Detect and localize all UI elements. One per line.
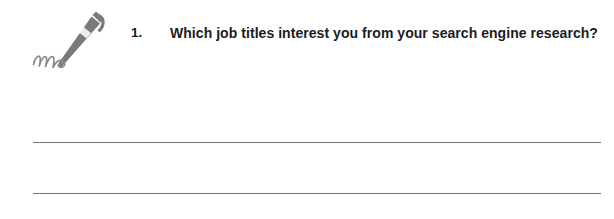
question-block: 1. Which job titles interest you from yo…: [131, 20, 603, 46]
worksheet-page: 1. Which job titles interest you from yo…: [0, 0, 614, 219]
question-number: 1.: [131, 20, 170, 46]
answer-area: [33, 142, 601, 194]
answer-line-1[interactable]: [33, 142, 601, 143]
question-text: Which job titles interest you from your …: [170, 20, 603, 46]
question-row: 1. Which job titles interest you from yo…: [131, 20, 603, 46]
answer-line-2[interactable]: [33, 193, 601, 194]
pen-signature-icon: [30, 6, 112, 74]
